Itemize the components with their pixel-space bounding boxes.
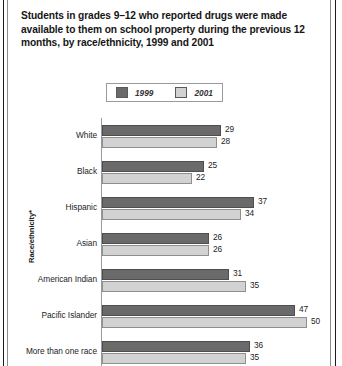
plot-area: White2928Black2522Hispanic3734Asian2626A… (0, 110, 342, 366)
bar-1999 (102, 341, 250, 352)
bar-value-label: 29 (225, 124, 234, 134)
bar-value-label: 37 (258, 196, 267, 206)
legend-label-2001: 2001 (194, 88, 212, 98)
category-label: Pacific Islander (0, 310, 97, 320)
bar-group: Hispanic3734 (0, 194, 342, 230)
bar-1999 (102, 161, 204, 172)
bar-group: Asian2626 (0, 230, 342, 266)
legend-entry-1999: 1999 (116, 87, 153, 98)
bar-value-label: 50 (311, 316, 320, 326)
category-label: Hispanic (0, 202, 97, 212)
category-label: White (0, 130, 97, 140)
bar-2001 (102, 137, 217, 148)
bar-value-label: 26 (213, 232, 222, 242)
bar-1999 (102, 197, 254, 208)
bar-value-label: 34 (245, 208, 254, 218)
category-label: American Indian (0, 274, 97, 284)
bar-group: White2928 (0, 122, 342, 158)
legend-entry-2001: 2001 (175, 87, 212, 98)
bar-1999 (102, 233, 209, 244)
bar-2001 (102, 209, 241, 220)
bar-group: More than one race3635 (0, 338, 342, 366)
category-label: Black (0, 166, 97, 176)
bar-value-label: 22 (196, 172, 205, 182)
legend-label-1999: 1999 (135, 88, 153, 98)
bar-1999 (102, 125, 221, 136)
chart-figure: Students in grades 9–12 who reported dru… (0, 0, 342, 366)
bar-value-label: 28 (221, 136, 230, 146)
bar-value-label: 35 (250, 280, 259, 290)
bar-value-label: 36 (254, 340, 263, 350)
bar-group: American Indian3135 (0, 266, 342, 302)
bar-2001 (102, 173, 192, 184)
bar-value-label: 31 (233, 268, 242, 278)
bar-value-label: 25 (208, 160, 217, 170)
bar-1999 (102, 305, 295, 316)
legend-swatch-1999 (116, 87, 128, 98)
bar-1999 (102, 269, 229, 280)
bar-2001 (102, 353, 246, 364)
bar-group: Black2522 (0, 158, 342, 194)
bar-2001 (102, 281, 246, 292)
category-label: More than one race (0, 346, 97, 356)
legend-swatch-2001 (175, 87, 187, 98)
bar-value-label: 26 (213, 244, 222, 254)
bar-2001 (102, 245, 209, 256)
bar-value-label: 35 (250, 352, 259, 362)
category-label: Asian (0, 238, 97, 248)
bar-group: Pacific Islander4750 (0, 302, 342, 338)
chart-legend: 1999 2001 (106, 83, 223, 102)
bar-2001 (102, 317, 307, 328)
chart-title: Students in grades 9–12 who reported dru… (21, 9, 313, 50)
bar-value-label: 47 (299, 304, 308, 314)
